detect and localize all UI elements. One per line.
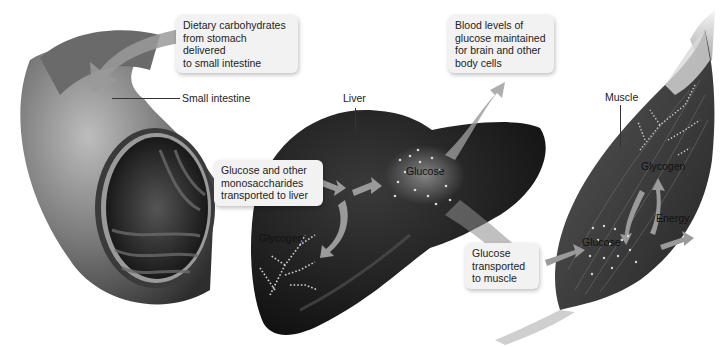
callout-transported-to-muscle: Glucose transported to muscle	[465, 243, 539, 289]
label-muscle-glycogen: Glycogen	[641, 160, 685, 172]
diagram-artwork	[0, 0, 720, 347]
callout-transported-to-liver: Glucose and other monosaccharides transp…	[214, 160, 323, 206]
callout-blood-glucose: Blood levels of glucose maintained for b…	[448, 15, 554, 73]
leader-muscle	[620, 105, 621, 147]
label-muscle-energy: Energy	[656, 212, 689, 224]
leader-liver	[355, 108, 356, 130]
callout-dietary-carbohydrates: Dietary carbohydrates from stomach deliv…	[176, 15, 298, 73]
leader-small-intestine	[112, 98, 180, 99]
label-liver: Liver	[343, 92, 366, 104]
liver-illustration	[251, 110, 546, 335]
label-muscle-glucose: Glucose	[582, 236, 621, 248]
glucose-metabolism-diagram: Dietary carbohydrates from stomach deliv…	[0, 0, 720, 347]
label-small-intestine: Small intestine	[182, 92, 250, 104]
label-muscle: Muscle	[605, 91, 638, 103]
label-liver-glucose: Glucose	[406, 165, 445, 177]
label-liver-glycogen: Glycogen	[259, 232, 303, 244]
